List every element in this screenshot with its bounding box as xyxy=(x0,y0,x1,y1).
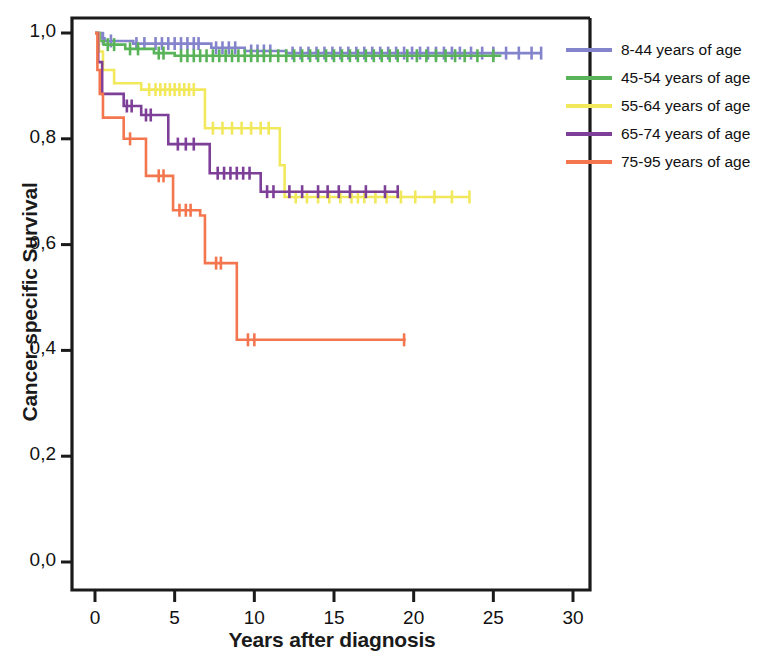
legend-swatch-icon xyxy=(566,104,612,108)
axis-ticks xyxy=(61,33,573,602)
legend-item-label: 65-74 years of age xyxy=(621,125,750,143)
survival-curve-series-4 xyxy=(95,33,398,198)
x-tick-label: 20 xyxy=(389,607,439,629)
y-tick-label: 0,6 xyxy=(4,232,56,254)
survival-curve-series-5 xyxy=(95,33,406,346)
legend-item-label: 75-95 years of age xyxy=(621,153,750,171)
y-tick-label: 0,8 xyxy=(4,126,56,148)
x-tick-label: 25 xyxy=(468,607,518,629)
y-tick-label: 1,0 xyxy=(4,20,56,42)
x-tick-label: 10 xyxy=(229,607,279,629)
legend-swatch-icon xyxy=(566,160,612,164)
legend-swatch-icon xyxy=(566,132,612,136)
legend-item-label: 55-64 years of age xyxy=(621,97,750,115)
x-tick-label: 30 xyxy=(548,607,598,629)
legend-item-label: 45-54 years of age xyxy=(621,69,750,87)
legend-item-5: 75-95 years of age xyxy=(566,148,770,176)
y-tick-label: 0,4 xyxy=(4,337,56,359)
axis-frame xyxy=(72,18,590,590)
x-tick-label: 5 xyxy=(150,607,200,629)
legend-item-1: 8-44 years of age xyxy=(566,36,770,64)
legend-swatch-icon xyxy=(566,48,612,52)
y-tick-label: 0,0 xyxy=(4,549,56,571)
legend-item-label: 8-44 years of age xyxy=(621,41,742,59)
legend-item-4: 65-74 years of age xyxy=(566,120,770,148)
x-tick-label: 0 xyxy=(70,607,120,629)
legend-swatch-icon xyxy=(566,76,612,80)
y-tick-label: 0,2 xyxy=(4,443,56,465)
survival-curves xyxy=(95,32,541,347)
legend-item-3: 55-64 years of age xyxy=(566,92,770,120)
x-tick-label: 15 xyxy=(309,607,359,629)
x-axis-title: Years after diagnosis xyxy=(72,628,592,652)
chart-legend: 8-44 years of age45-54 years of age55-64… xyxy=(566,36,770,176)
survival-chart-figure: Cancer-specific Survival Years after dia… xyxy=(0,0,770,665)
legend-item-2: 45-54 years of age xyxy=(566,64,770,92)
